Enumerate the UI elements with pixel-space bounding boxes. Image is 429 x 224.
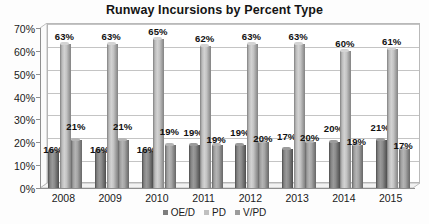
bar-body: [107, 44, 118, 188]
data-label-v-pd-2009: 21%: [111, 122, 135, 132]
bar-body: [189, 145, 200, 188]
data-label-v-pd-2015: 17%: [391, 141, 415, 151]
bar-cap: [329, 140, 338, 143]
bar-body: [247, 44, 258, 188]
data-label-pd-2013: 63%: [286, 32, 310, 42]
bar-cap: [387, 47, 396, 50]
legend-label: PD: [212, 207, 226, 218]
data-label-pd-2012: 63%: [239, 32, 263, 42]
data-label-v-pd-2011: 19%: [204, 135, 228, 145]
bar-cap: [71, 138, 80, 141]
bar-v-pd-2015: [399, 149, 408, 188]
bar-body: [71, 140, 82, 188]
legend-label: V/PD: [243, 207, 266, 218]
bar-pd-2014: [340, 51, 349, 188]
bar-v-pd-2012: [258, 142, 267, 188]
bar-oe-d-2013: [282, 149, 291, 188]
bar-body: [235, 145, 246, 188]
bar-cap: [118, 138, 127, 141]
bar-v-pd-2009: [118, 140, 127, 188]
bar-v-pd-2011: [212, 145, 221, 188]
bar-cap: [294, 42, 303, 45]
data-label-pd-2008: 63%: [52, 32, 76, 42]
bar-body: [376, 140, 387, 188]
bar-body: [399, 149, 410, 188]
bar-cap: [340, 49, 349, 52]
data-label-pd-2009: 63%: [99, 32, 123, 42]
data-label-v-pd-2012: 20%: [251, 134, 275, 144]
bar-cap: [60, 42, 69, 45]
data-label-v-pd-2010: 19%: [157, 127, 181, 137]
bar-body: [340, 51, 351, 188]
data-label-pd-2014: 60%: [333, 39, 357, 49]
bar-cap: [189, 143, 198, 146]
data-label-v-pd-2008: 21%: [64, 122, 88, 132]
bar-v-pd-2013: [305, 142, 314, 188]
bar-oe-d-2012: [235, 145, 244, 188]
bar-pd-2009: [107, 44, 116, 188]
bar-body: [95, 151, 106, 188]
bar-body: [142, 151, 153, 188]
bar-body: [153, 39, 164, 188]
bar-body: [258, 142, 269, 188]
bar-pd-2015: [387, 49, 396, 188]
bar-pd-2010: [153, 39, 162, 188]
chart-legend: OE/D PD V/PD: [0, 207, 429, 218]
legend-label: OE/D: [171, 207, 195, 218]
data-label-pd-2015: 61%: [380, 37, 404, 47]
bar-v-pd-2010: [165, 145, 174, 188]
runway-incursions-chart: Runway Incursions by Percent Type 70% 60…: [0, 0, 429, 224]
bar-v-pd-2014: [352, 145, 361, 188]
legend-swatch-icon: [235, 210, 240, 215]
bar-body: [329, 142, 340, 188]
bar-oe-d-2015: [376, 140, 385, 188]
bar-pd-2013: [294, 44, 303, 188]
bar-v-pd-2008: [71, 140, 80, 188]
bar-oe-d-2010: [142, 151, 151, 188]
bar-cap: [247, 42, 256, 45]
bar-body: [282, 149, 293, 188]
bar-oe-d-2008: [48, 151, 57, 188]
legend-swatch-icon: [163, 210, 168, 215]
bar-body: [200, 46, 211, 188]
bar-cap: [107, 42, 116, 45]
bar-cap: [165, 143, 174, 146]
bar-body: [165, 145, 176, 188]
bar-body: [60, 44, 71, 188]
bar-body: [118, 140, 129, 188]
bar-oe-d-2009: [95, 151, 104, 188]
bar-cap: [235, 143, 244, 146]
bar-body: [48, 151, 59, 188]
bar-cap: [376, 138, 385, 141]
bar-body: [294, 44, 305, 188]
bar-pd-2012: [247, 44, 256, 188]
data-label-v-pd-2014: 19%: [344, 137, 368, 147]
bar-oe-d-2011: [189, 145, 198, 188]
bar-pd-2008: [60, 44, 69, 188]
bar-cap: [282, 147, 291, 150]
legend-item-pd[interactable]: PD: [204, 207, 226, 218]
bar-body: [352, 145, 363, 188]
legend-item-oed[interactable]: OE/D: [163, 207, 195, 218]
data-label-v-pd-2013: 20%: [298, 133, 322, 143]
bars-layer: 16%63%21%16%63%21%16%65%19%19%62%19%19%6…: [0, 0, 429, 224]
bar-body: [212, 145, 223, 188]
data-label-pd-2010: 65%: [146, 27, 170, 37]
legend-swatch-icon: [204, 210, 209, 215]
bar-body: [387, 49, 398, 188]
bar-pd-2011: [200, 46, 209, 188]
data-label-pd-2011: 62%: [193, 34, 217, 44]
bar-oe-d-2014: [329, 142, 338, 188]
legend-item-vpd[interactable]: V/PD: [235, 207, 266, 218]
bar-body: [305, 142, 316, 188]
